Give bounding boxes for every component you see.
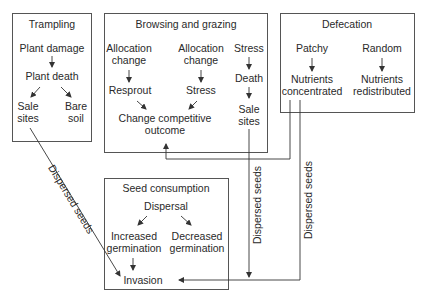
allocation-change-left-node: Allocation <box>106 42 152 54</box>
patchy-node: Patchy <box>296 42 329 54</box>
random-node: Random <box>362 42 402 54</box>
impact-diagram: Trampling Plant damage Plant death Sale … <box>0 0 426 302</box>
plant-death-node: Plant death <box>25 70 78 82</box>
nutrients-redistributed-line2: redistributed <box>353 85 411 97</box>
change-competitive-outcome-line2: outcome <box>145 124 185 136</box>
sale-sites-node: Sale <box>17 100 38 112</box>
bare-soil-node-line2: soil <box>68 112 84 124</box>
bare-soil-node: Bare <box>65 100 87 112</box>
browsing-title: Browsing and grazing <box>136 18 237 30</box>
seed-consumption-title: Seed consumption <box>123 182 210 194</box>
allocation-change-right-node: Allocation <box>178 42 224 54</box>
increased-germination-line2: germination <box>107 242 162 254</box>
nutrients-concentrated-node: Nutrients <box>291 73 333 85</box>
browsing-box: Browsing and grazing Allocation change R… <box>105 14 268 153</box>
death-node: Death <box>235 72 263 84</box>
allocation-change-right-line2: change <box>184 54 219 66</box>
nutrients-concentrated-line2: concentrated <box>282 85 343 97</box>
connector-label-vertical-right: Dispersed seeds <box>302 161 314 239</box>
defecation-box: Defecation Patchy Nutrients concentrated… <box>281 14 415 113</box>
change-competitive-outcome-node: Change competitive <box>119 112 212 124</box>
sale-sites-browse-node: Sale <box>238 103 259 115</box>
decreased-germination-node: Decreased <box>172 230 223 242</box>
trampling-title: Trampling <box>29 18 75 30</box>
allocation-change-left-line2: change <box>112 54 147 66</box>
resprout-node: Resprout <box>109 84 152 96</box>
sale-sites-browse-line2: sites <box>238 115 260 127</box>
plant-damage-node: Plant damage <box>20 42 85 54</box>
stress-top-node: Stress <box>234 42 264 54</box>
increased-germination-node: Increased <box>111 230 157 242</box>
seed-consumption-box: Seed consumption Dispersal Increased ger… <box>105 179 229 290</box>
nutrients-redistributed-node: Nutrients <box>361 73 403 85</box>
connector-label-vertical-middle: Dispersed seeds <box>251 166 263 244</box>
stress-mid-node: Stress <box>186 84 216 96</box>
trampling-box: Trampling Plant damage Plant death Sale … <box>13 14 92 142</box>
connector-label-diagonal: Dispersed seeds <box>46 162 97 235</box>
invasion-node: Invasion <box>123 274 162 286</box>
sale-sites-node-line2: sites <box>17 112 39 124</box>
defecation-title: Defecation <box>322 18 372 30</box>
dispersal-node: Dispersal <box>144 200 188 212</box>
decreased-germination-line2: germination <box>170 242 225 254</box>
